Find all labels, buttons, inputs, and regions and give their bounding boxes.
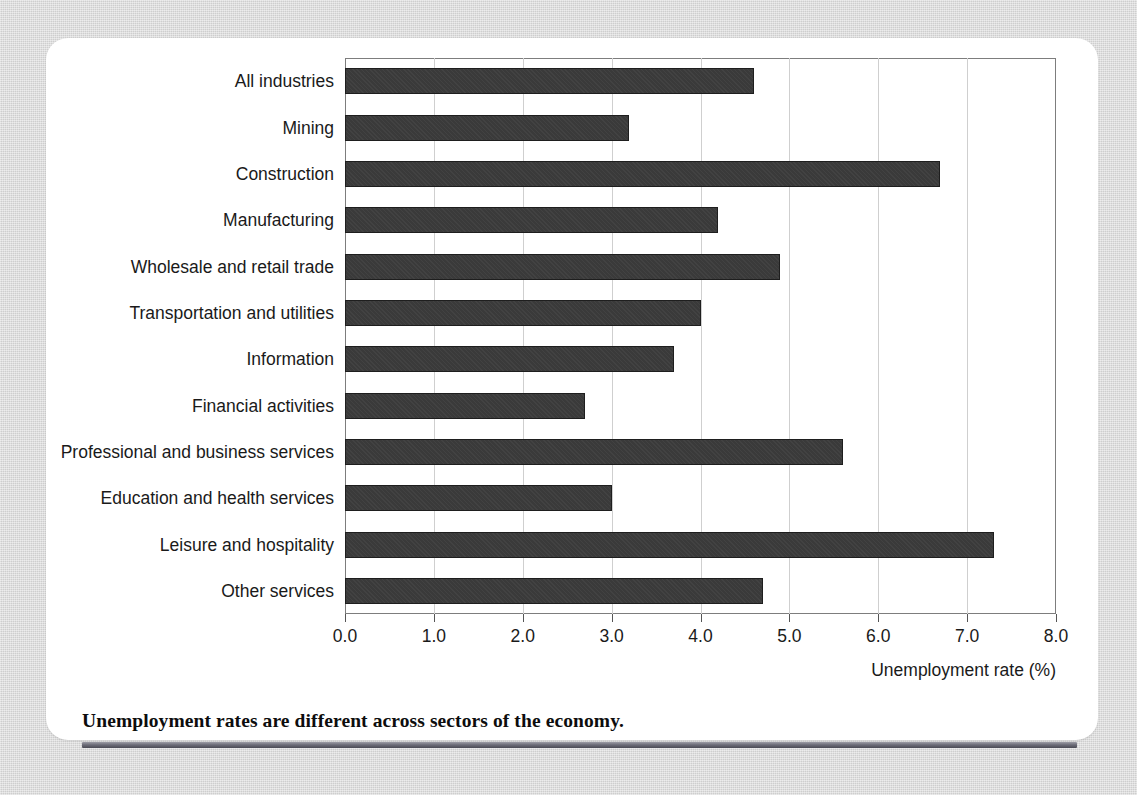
bar [345,68,754,94]
category-label: All industries [235,73,345,91]
bar-row: Transportation and utilities [345,300,1056,326]
category-label: Education and health services [101,490,345,508]
category-label: Mining [282,120,345,138]
bar-row: Information [345,346,1056,372]
bar-row: Leisure and hospitality [345,532,1056,558]
x-axis-tick-labels: 0.01.02.03.04.05.06.07.08.0 [345,626,1056,652]
category-label: Professional and business services [61,444,345,462]
bar-row: All industries [345,68,1056,94]
x-axis-tick [878,614,879,622]
category-label: Information [246,351,345,369]
bar [345,207,718,233]
bar-chart-plot: All industriesMiningConstructionManufact… [345,58,1056,614]
x-axis-tick [434,614,435,622]
category-label: Manufacturing [223,212,345,230]
x-axis-tick [967,614,968,622]
x-axis-tick-label: 4.0 [688,626,712,647]
bar [345,485,612,511]
bar [345,300,701,326]
bar [345,532,994,558]
figure-caption: Unemployment rates are different across … [82,710,1072,732]
x-axis-tick [1056,614,1057,622]
bar-series: All industriesMiningConstructionManufact… [345,58,1056,614]
category-label: Construction [236,166,345,184]
bar [345,578,763,604]
x-axis-tick [789,614,790,622]
x-axis-tick-label: 1.0 [422,626,446,647]
x-axis-tick-label: 0.0 [333,626,357,647]
category-label: Wholesale and retail trade [131,259,345,277]
bar-row: Professional and business services [345,439,1056,465]
bar [345,439,843,465]
bar-row: Other services [345,578,1056,604]
bar-row: Mining [345,115,1056,141]
bar-row: Financial activities [345,393,1056,419]
caption-rule [82,742,1077,748]
x-axis-tick [701,614,702,622]
bar-row: Education and health services [345,485,1056,511]
bar-row: Construction [345,161,1056,187]
x-axis-tick-label: 2.0 [511,626,535,647]
bar [345,161,940,187]
x-axis-tick-label: 3.0 [599,626,623,647]
x-axis-tick-label: 5.0 [777,626,801,647]
figure-card: All industriesMiningConstructionManufact… [46,38,1098,740]
x-axis-tick-label: 6.0 [866,626,890,647]
figure-area: All industriesMiningConstructionManufact… [46,38,1098,740]
x-axis-tick [612,614,613,622]
category-label: Other services [221,583,345,601]
bar-row: Wholesale and retail trade [345,254,1056,280]
bar [345,346,674,372]
x-axis-tick-label: 7.0 [955,626,979,647]
x-axis-ticks [345,614,1056,624]
bar-row: Manufacturing [345,207,1056,233]
x-axis-title: Unemployment rate (%) [345,660,1056,681]
bar [345,393,585,419]
category-label: Transportation and utilities [129,305,345,323]
bar [345,254,780,280]
x-axis-tick [523,614,524,622]
x-axis-tick [345,614,346,622]
x-axis-tick-label: 8.0 [1044,626,1068,647]
category-label: Leisure and hospitality [160,537,345,555]
bar [345,115,629,141]
category-label: Financial activities [192,398,345,416]
